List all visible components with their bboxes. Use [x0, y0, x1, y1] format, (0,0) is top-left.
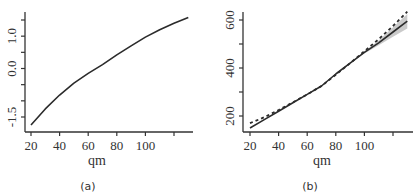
- y-ticks: -1.50.01.0: [4, 20, 25, 127]
- x-tick-label: 20: [244, 138, 257, 153]
- dashed-line: [250, 12, 407, 124]
- x-axis-title: qm: [313, 153, 331, 168]
- panel-label: (a): [80, 180, 95, 193]
- x-axis-title: qm: [88, 153, 106, 168]
- x-tick-label: 80: [110, 138, 123, 153]
- x-tick-label: 100: [136, 138, 156, 153]
- panel-b: 200400600 20406080100 qm (b): [222, 10, 413, 193]
- x-ticks: 20406080100: [244, 132, 394, 153]
- fit-line: [31, 17, 188, 125]
- y-ticks: 200400600: [222, 10, 243, 126]
- x-tick-label: 40: [53, 138, 66, 153]
- panel-label: (b): [302, 180, 318, 193]
- y-tick-label: 0.0: [4, 60, 19, 76]
- x-tick-label: 60: [301, 138, 314, 153]
- x-tick-label: 100: [355, 138, 375, 153]
- y-tick-label: 200: [222, 106, 237, 126]
- y-tick-label: 400: [222, 58, 237, 78]
- y-tick-label: -1.5: [4, 107, 19, 128]
- x-tick-label: 40: [272, 138, 285, 153]
- x-tick-label: 60: [82, 138, 95, 153]
- x-ticks: 20406080100: [25, 132, 175, 153]
- x-tick-label: 20: [25, 138, 38, 153]
- plot-area: [250, 12, 407, 128]
- x-tick-label: 80: [329, 138, 342, 153]
- y-tick-label: 600: [222, 10, 237, 30]
- panel-a: -1.50.01.0 20406080100 qm (a): [4, 12, 193, 193]
- figure: -1.50.01.0 20406080100 qm (a) 200400600 …: [0, 0, 417, 196]
- y-tick-label: 1.0: [4, 28, 19, 44]
- plot-area: [31, 17, 188, 125]
